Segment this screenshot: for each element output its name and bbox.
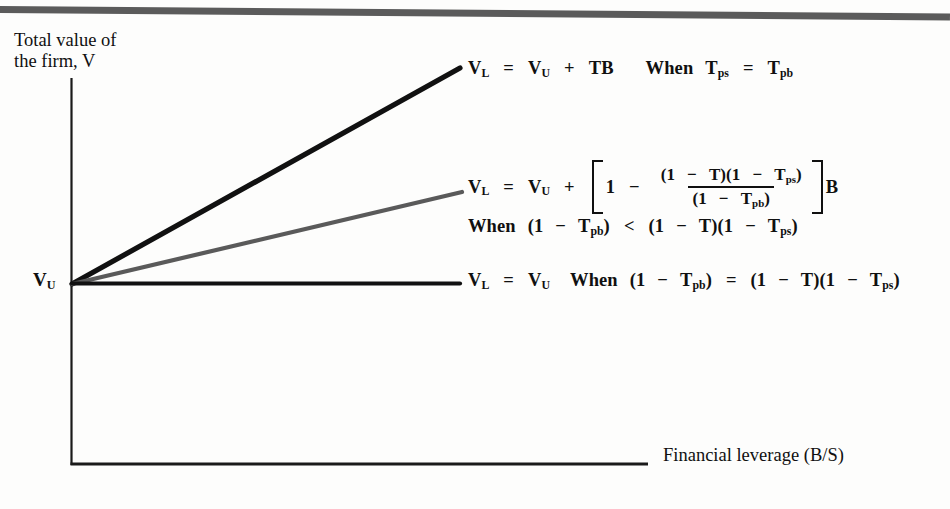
eq2when-right-minus1: − xyxy=(676,216,687,236)
eq2when-right-t1: T)(1 xyxy=(699,216,733,236)
eq2-num-open: (1 xyxy=(661,165,675,184)
y-axis-title: Total value of the firm, V xyxy=(14,30,116,73)
eq3-right-t1: T)(1 xyxy=(801,270,835,290)
eq2-equals: = xyxy=(501,177,516,198)
eq3-lhs-sub: L xyxy=(481,278,489,292)
eq2-num-close: ) xyxy=(796,165,802,184)
eq2-numerator: (1−T)(1−Tps) xyxy=(657,165,806,186)
equation-vl-tb: VL=VU+TBWhenTps=Tpb xyxy=(468,58,793,81)
eq2-den-sub: pb xyxy=(752,197,764,209)
eq3-when-word: When xyxy=(570,270,618,290)
eq2-num-t2-sub: ps xyxy=(786,173,796,185)
eq3-lhs-v: V xyxy=(468,270,481,290)
eq2-rhs-v: V xyxy=(528,177,541,198)
eq1-lhs-v: V xyxy=(468,58,481,78)
eq3-right-minus2: − xyxy=(847,270,858,290)
eq2-rhs-sub: U xyxy=(541,184,550,198)
eq2when-left-close: ) xyxy=(604,216,610,236)
eq1-cond-t1: T xyxy=(705,58,717,78)
vu-letter: V xyxy=(33,269,47,290)
eq2-minus: − xyxy=(627,177,642,198)
eq1-when-word: When xyxy=(646,58,694,78)
eq2-trailing-b: B xyxy=(826,177,838,198)
eq2-bracket-group: 1−(1−T)(1−Tps)(1−Tpb) xyxy=(589,160,826,214)
eq3-right-close: ) xyxy=(893,270,899,290)
eq1-lhs-sub: L xyxy=(481,66,489,80)
eq2when-left-minus: − xyxy=(555,216,566,236)
eq3-rhs-v: V xyxy=(528,270,541,290)
eq3-left-close: ) xyxy=(706,270,712,290)
vu-intercept-label: VU xyxy=(33,269,56,293)
eq2-den-close: ) xyxy=(764,189,770,208)
eq3-equals: = xyxy=(501,270,516,290)
eq2when-right-close: ) xyxy=(791,216,797,236)
eq2-num-minus1: − xyxy=(687,165,697,184)
y-axis-title-line1: Total value of xyxy=(14,30,116,51)
eq2when-right-minus2: − xyxy=(745,216,756,236)
vu-subscript: U xyxy=(47,278,56,292)
eq2-fraction: (1−T)(1−Tps)(1−Tpb) xyxy=(657,165,806,209)
y-axis-title-line2: the firm, V xyxy=(14,51,116,72)
eq2-lhs-v: V xyxy=(468,177,481,198)
eq2when-right-open: (1 xyxy=(649,216,665,236)
eq2-den-open: (1 xyxy=(692,189,706,208)
eq2-denominator: (1−Tpb) xyxy=(688,186,774,209)
eq2when-word: When xyxy=(468,216,516,236)
equation-vl-bracket: VL=VU+1−(1−T)(1−Tps)(1−Tpb)B xyxy=(468,160,838,214)
eq2when-right-t2: T xyxy=(768,216,780,236)
eq3-rhs-sub: U xyxy=(541,278,550,292)
eq3-right-minus1: − xyxy=(778,270,789,290)
eq3-left-open: (1 xyxy=(630,270,646,290)
eq3-left-sub: pb xyxy=(692,278,705,292)
equation-vl-bracket-condition: When(1−Tpb)<(1−T)(1−Tps) xyxy=(468,216,798,239)
eq2-den-t: T xyxy=(741,189,752,208)
eq1-plus: + xyxy=(562,58,577,78)
eq2-num-minus2: − xyxy=(752,165,762,184)
eq3-relation: = xyxy=(724,270,739,290)
eq2-den-minus: − xyxy=(719,189,729,208)
eq2when-left-sub: pb xyxy=(590,224,603,238)
eq1-cond-t2-sub: pb xyxy=(780,66,793,80)
eq2when-right-sub2: ps xyxy=(780,224,791,238)
eq1-cond-t2: T xyxy=(768,58,780,78)
eq3-left-minus: − xyxy=(657,270,668,290)
equation-vl-flat: VL=VUWhen(1−Tpb)=(1−T)(1−Tps) xyxy=(468,270,900,293)
eq3-right-sub2: ps xyxy=(882,278,893,292)
eq1-rhs-sub: U xyxy=(541,66,550,80)
line-vl-tb xyxy=(72,68,460,284)
eq2-num-t2: T xyxy=(774,165,785,184)
eq3-right-t2: T xyxy=(870,270,882,290)
x-axis-title: Financial leverage (B/S) xyxy=(663,445,844,466)
eq1-cond-op: = xyxy=(741,58,756,78)
eq2when-relation: < xyxy=(622,216,637,236)
line-vl-bracket xyxy=(72,192,462,284)
figure-canvas: Total value of the firm, V Financial lev… xyxy=(0,0,950,509)
eq1-rhs-v: V xyxy=(528,58,541,78)
bracket-right xyxy=(812,160,823,214)
bracket-left xyxy=(592,160,603,214)
eq3-right-open: (1 xyxy=(751,270,767,290)
eq2-one: 1 xyxy=(606,177,615,198)
eq2-lhs-sub: L xyxy=(481,184,489,198)
eq1-equals: = xyxy=(501,58,516,78)
eq3-left-t: T xyxy=(680,270,692,290)
eq2-plus: + xyxy=(562,177,577,198)
eq2when-left-t: T xyxy=(578,216,590,236)
eq1-term-tb: TB xyxy=(589,58,614,78)
eq1-cond-t1-sub: ps xyxy=(718,66,729,80)
eq2when-left-open: (1 xyxy=(528,216,544,236)
eq2-num-t1: T)(1 xyxy=(709,165,741,184)
